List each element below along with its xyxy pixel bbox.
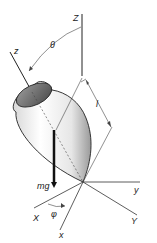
x-axis-label: x: [58, 230, 64, 240]
phi-arrowhead-icon: [61, 203, 65, 208]
X-axis-label: X: [32, 213, 40, 223]
weight-arrowhead-icon: [51, 182, 57, 188]
theta-arc: [29, 27, 81, 71]
phi-label: φ: [51, 209, 57, 219]
z-axis: [10, 52, 32, 92]
theta-label: θ: [50, 40, 55, 50]
length-dimension: [86, 80, 111, 127]
length-arrow-bottom-icon: [107, 121, 111, 127]
Z-axis-label: Z: [72, 13, 79, 23]
weight-label: mg: [37, 181, 50, 191]
Y-axis-label: Y: [131, 216, 138, 226]
length-tick: [81, 79, 86, 82]
Y-axis: [83, 182, 137, 215]
top-diagram: Z θ z l mg y Y X x φ: [0, 0, 157, 243]
z-axis-label: z: [13, 46, 19, 56]
y-axis-label: y: [133, 185, 139, 195]
